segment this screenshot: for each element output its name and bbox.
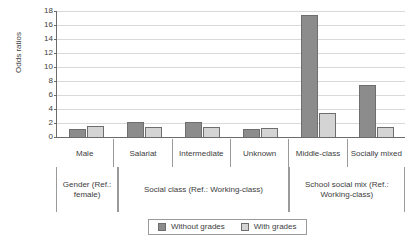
bar (243, 129, 260, 137)
bar-group (57, 11, 115, 137)
x-axis-group-label: School social mix (Ref.: Working-class) (289, 167, 405, 212)
x-axis-group-label-text: Social class (Ref.: Working-class) (144, 185, 263, 195)
bar-group (289, 11, 347, 137)
bar (127, 122, 144, 137)
odds-ratios-bar-chart: Odds ratios 024681012141618 MaleSalariat… (0, 0, 412, 250)
x-axis-group-label: Social class (Ref.: Working-class) (118, 167, 289, 212)
y-axis-title: Odds ratios (14, 8, 23, 98)
bar (301, 15, 318, 138)
x-axis-category-label: Intermediate (172, 139, 230, 167)
category-axis: MaleSalariatIntermediateUnknownMiddle-cl… (56, 139, 405, 167)
y-axis-tick-label: 14 (44, 35, 53, 43)
y-axis-tick-label: 2 (49, 119, 53, 127)
legend-label: Without grades (171, 223, 225, 231)
x-axis-category-label: Middle-class (288, 139, 346, 167)
bar-group (115, 11, 173, 137)
bar (185, 122, 202, 137)
x-axis-group-label-text: School social mix (Ref.: Working-class) (293, 180, 401, 200)
x-axis-group-label-text: Gender (Ref.: female) (60, 180, 114, 200)
y-axis-tick-label: 18 (44, 7, 53, 15)
bars-layer (57, 11, 405, 137)
legend-label: With grades (254, 223, 297, 231)
bar (69, 129, 86, 137)
y-axis-tick-label: 4 (49, 105, 53, 113)
bar (319, 113, 336, 138)
bar-group (231, 11, 289, 137)
chart-legend: Without gradesWith grades (148, 219, 307, 235)
x-axis-category-label: Socially mixed (347, 139, 405, 167)
bar-group (173, 11, 231, 137)
legend-item: With grades (241, 223, 297, 231)
bar (359, 85, 376, 138)
y-axis-tick-label: 6 (49, 91, 53, 99)
y-axis-tick-label: 10 (44, 63, 53, 71)
plot-area: 024681012141618 (56, 11, 405, 138)
bar (377, 127, 394, 138)
x-axis-category-label: Unknown (230, 139, 288, 167)
bar-group (347, 11, 405, 137)
legend-swatch (158, 223, 166, 231)
legend-item: Without grades (158, 223, 225, 231)
group-axis: Gender (Ref.: female)Social class (Ref.:… (56, 167, 405, 212)
y-axis-tick-label: 16 (44, 21, 53, 29)
bar (145, 127, 162, 137)
x-axis-category-label: Male (56, 139, 113, 167)
legend-swatch (241, 223, 249, 231)
x-axis-category-label: Salariat (113, 139, 171, 167)
x-axis-group-label: Gender (Ref.: female) (56, 167, 118, 212)
y-axis-tick-label: 0 (49, 133, 53, 141)
bar (87, 126, 104, 137)
bar (261, 128, 278, 137)
bar (203, 127, 220, 137)
y-axis-tick-label: 8 (49, 77, 53, 85)
y-axis-tick-mark (54, 137, 57, 138)
y-axis-tick-label: 12 (44, 49, 53, 57)
